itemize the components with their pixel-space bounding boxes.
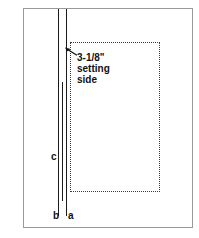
label-b: b — [53, 211, 59, 221]
vertical-line-b — [58, 9, 59, 216]
label-c: c — [51, 152, 57, 162]
vertical-line-a — [66, 9, 67, 216]
callout-text-block: 3-1/8" setting side — [77, 52, 110, 85]
setting-side-diagram: 3-1/8" setting side c b a — [0, 0, 199, 238]
callout-line-side: side — [77, 74, 110, 85]
callout-line-setting: setting — [77, 63, 110, 74]
callout-line-dimension: 3-1/8" — [77, 52, 110, 63]
vertical-line-c — [62, 82, 63, 201]
label-a: a — [68, 211, 74, 221]
